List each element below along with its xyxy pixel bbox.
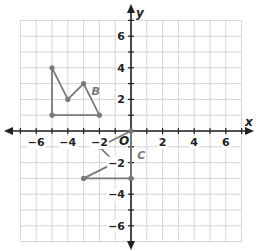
x-tick-label: 2 — [159, 136, 167, 149]
y-tick-label: −4 — [108, 188, 125, 201]
figure-label-b: B — [92, 85, 100, 98]
coordinate-plane: −6−4−2246642−2−4−6xyOBC — [0, 0, 256, 251]
vertex-point — [97, 113, 102, 118]
x-tick-label: −6 — [28, 136, 45, 149]
vertex-point — [65, 97, 70, 102]
x-axis-label: x — [244, 115, 254, 129]
y-tick-label: 2 — [117, 93, 125, 106]
vertex-point — [128, 176, 133, 181]
vertex-point — [81, 176, 86, 181]
y-tick-label: 4 — [117, 62, 125, 75]
origin-label: O — [119, 134, 129, 148]
y-axis-up-arrow-icon — [127, 4, 135, 13]
figure-label-c: C — [137, 149, 145, 162]
y-tick-label: 6 — [117, 30, 125, 43]
x-tick-label: −4 — [59, 136, 76, 149]
y-tick-label: −2 — [108, 157, 125, 170]
vertex-point — [128, 128, 133, 133]
x-tick-label: 4 — [190, 136, 198, 149]
vertex-point — [81, 81, 86, 86]
labels: −6−4−2246642−2−4−6xyOBC — [27, 6, 254, 233]
y-tick-label: −6 — [108, 220, 125, 233]
x-tick-label: −2 — [91, 136, 108, 149]
axes — [4, 4, 254, 250]
x-axis-left-arrow-icon — [4, 127, 13, 135]
vertex-point — [49, 65, 54, 70]
y-axis-label: y — [136, 6, 145, 20]
vertex-point — [49, 113, 54, 118]
y-axis-down-arrow-icon — [127, 241, 135, 250]
x-tick-label: 6 — [222, 136, 230, 149]
